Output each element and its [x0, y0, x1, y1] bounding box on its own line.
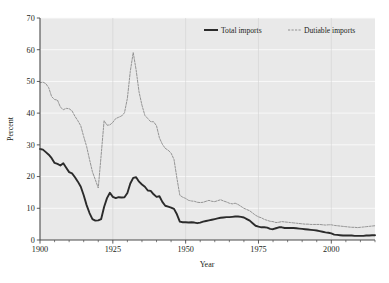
y-tick-label: 30 — [27, 141, 35, 150]
y-tick-label: 60 — [27, 46, 35, 55]
y-tick-label: 10 — [27, 204, 35, 213]
x-tick-label: 1950 — [177, 245, 193, 254]
plot-area-background — [40, 18, 375, 240]
y-axis-title: Percent — [6, 116, 15, 141]
x-tick-label: 2000 — [323, 245, 339, 254]
y-tick-label: 40 — [27, 109, 35, 118]
chart-figure: 010203040506070 19001925195019752000 Per… — [0, 0, 389, 283]
x-tick-label: 1975 — [250, 245, 266, 254]
line-chart: 010203040506070 19001925195019752000 Per… — [0, 0, 389, 283]
y-tick-label: 20 — [27, 172, 35, 181]
legend-label-dutiable-imports: Dutiable imports — [304, 26, 355, 35]
legend-label-total-imports: Total imports — [221, 26, 262, 35]
x-tick-label: 1925 — [105, 245, 121, 254]
x-tick-label: 1900 — [32, 245, 48, 254]
y-tick-label: 70 — [27, 14, 35, 23]
y-tick-label: 50 — [27, 77, 35, 86]
y-tick-label: 0 — [31, 236, 35, 245]
x-axis-title: Year — [200, 260, 215, 269]
